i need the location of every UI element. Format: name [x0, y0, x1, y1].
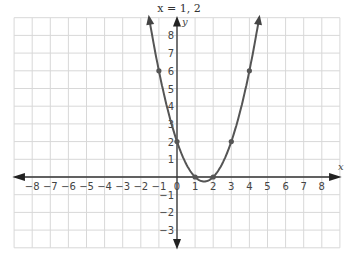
y-tick-label: −2 — [159, 207, 174, 218]
data-point — [229, 139, 234, 144]
y-axis-label: y — [181, 16, 188, 27]
data-point — [211, 174, 216, 179]
x-tick-label: 4 — [246, 181, 252, 192]
x-tick-label: 2 — [210, 181, 216, 192]
y-tick-label: −3 — [159, 225, 174, 236]
data-point — [247, 68, 252, 73]
parabola-chart: −8−7−6−5−4−3−2−1012345678−3−2−112345678x… — [0, 0, 358, 265]
y-tick-label: 1 — [168, 154, 174, 165]
x-tick-label: −7 — [43, 181, 58, 192]
x-tick-label: 3 — [228, 181, 234, 192]
y-tick-label: 2 — [168, 137, 174, 148]
data-point — [193, 174, 198, 179]
y-tick-label: −1 — [159, 190, 174, 201]
curve-arrow-icon — [254, 15, 262, 26]
x-tick-label: 8 — [319, 181, 325, 192]
x-tick-label: 5 — [264, 181, 270, 192]
x-tick-label: 7 — [301, 181, 307, 192]
x-axis-label: x — [338, 161, 344, 172]
y-tick-label: 8 — [168, 30, 174, 41]
data-point — [174, 139, 179, 144]
x-tick-label: −3 — [115, 181, 130, 192]
parabola-curve — [149, 18, 259, 182]
x-tick-label: 6 — [282, 181, 288, 192]
x-tick-label: 1 — [192, 181, 198, 192]
curve-arrow-icon — [146, 15, 154, 26]
x-tick-label: −4 — [97, 181, 112, 192]
y-tick-label: 6 — [168, 66, 174, 77]
x-tick-label: −6 — [61, 181, 76, 192]
x-tick-label: −5 — [79, 181, 94, 192]
data-point — [156, 68, 161, 73]
x-tick-label: 0 — [174, 181, 180, 192]
x-tick-label: −8 — [25, 181, 40, 192]
y-tick-label: 7 — [168, 48, 174, 59]
y-tick-label: 5 — [168, 84, 174, 95]
x-tick-label: −2 — [133, 181, 148, 192]
